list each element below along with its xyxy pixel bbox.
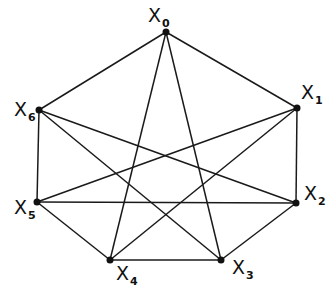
nodes-group	[34, 29, 301, 264]
edge-x1-x2	[296, 108, 297, 203]
node-label-x5: X5	[14, 196, 36, 222]
edge-x2-x3	[221, 203, 296, 260]
node-x4	[107, 257, 114, 264]
edges-group	[37, 32, 297, 260]
node-x6	[36, 107, 43, 114]
edge-x5-x6	[37, 110, 39, 202]
edge-x5-x1	[37, 108, 297, 202]
node-x5	[34, 199, 41, 206]
edge-x4-x5	[37, 202, 110, 260]
node-label-x3: X3	[232, 256, 254, 282]
edge-x6-x3	[39, 110, 221, 260]
edge-x0-x1	[166, 32, 297, 108]
node-label-x0: X0	[148, 4, 170, 30]
node-x2	[293, 200, 300, 207]
edge-x4-x1	[110, 108, 297, 260]
node-label-x6: X6	[14, 98, 36, 124]
edge-x6-x0	[39, 32, 166, 110]
node-x1	[294, 105, 301, 112]
node-label-x1: X1	[301, 81, 323, 107]
node-label-x2: X2	[304, 182, 326, 208]
edge-x6-x2	[39, 110, 296, 203]
graph-diagram: X0X1X2X3X4X5X6	[0, 0, 336, 297]
node-x3	[218, 257, 225, 264]
edge-x5-x2	[37, 202, 296, 203]
node-label-x4: X4	[116, 262, 138, 288]
